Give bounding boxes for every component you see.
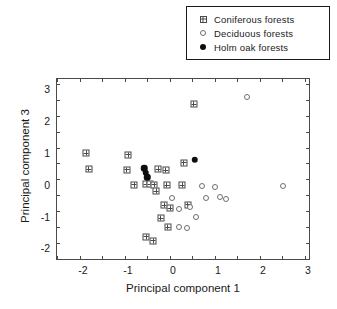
data-point <box>155 166 162 173</box>
crossed-square-icon <box>131 181 138 188</box>
crossed-square-icon <box>163 182 170 189</box>
open-circle-icon <box>223 196 229 202</box>
data-point <box>169 195 175 201</box>
data-point <box>193 214 199 220</box>
data-point <box>167 205 174 212</box>
filled-circle-icon <box>191 156 198 163</box>
axis-tick <box>192 79 193 82</box>
open-circle-icon <box>192 30 214 36</box>
open-circle-icon <box>176 224 182 230</box>
axis-tick <box>260 256 261 259</box>
data-point <box>203 195 209 201</box>
open-circle-icon <box>169 195 175 201</box>
axis-tick <box>260 79 261 82</box>
data-point <box>150 237 157 244</box>
scatter-plot-figure: Coniferous forests Deciduous forests Hol… <box>0 0 337 309</box>
crossed-square-icon <box>83 150 90 157</box>
data-point <box>125 151 132 158</box>
chart-legend: Coniferous forests Deciduous forests Hol… <box>186 6 330 60</box>
axis-tick <box>170 256 171 259</box>
filled-circle-icon <box>192 44 214 51</box>
data-point <box>131 181 138 188</box>
data-point <box>179 182 186 189</box>
open-circle-icon <box>176 206 182 212</box>
data-point <box>157 215 164 222</box>
x-tick-label: -1 <box>123 264 132 276</box>
crossed-square-icon <box>167 205 174 212</box>
axis-tick <box>57 148 60 149</box>
axis-tick <box>57 116 60 117</box>
legend-item-holm-oak-forests: Holm oak forests <box>192 40 323 54</box>
open-circle-icon <box>203 195 209 201</box>
axis-tick <box>102 79 103 82</box>
x-tick-label: -2 <box>78 264 87 276</box>
axis-tick <box>125 256 126 259</box>
crossed-square-icon <box>190 101 197 108</box>
axis-tick <box>57 259 60 260</box>
open-circle-icon <box>280 183 286 189</box>
legend-item-coniferous-forests: Coniferous forests <box>192 12 323 26</box>
y-tick-label: 0 <box>34 179 50 191</box>
crossed-square-icon <box>179 182 186 189</box>
crossed-square-icon <box>164 224 171 231</box>
data-point <box>190 101 197 108</box>
legend-label-coniferous-forests: Coniferous forests <box>214 13 295 26</box>
axis-tick <box>57 179 60 180</box>
data-point <box>184 225 190 231</box>
data-point <box>212 184 218 190</box>
crossed-square-icon <box>123 166 130 173</box>
open-circle-icon <box>199 183 205 189</box>
filled-circle-icon <box>144 174 151 181</box>
crossed-square-icon <box>180 159 187 166</box>
axis-tick <box>80 79 81 82</box>
data-point <box>199 183 205 189</box>
legend-label-deciduous-forests: Deciduous forests <box>214 27 293 40</box>
data-point <box>164 224 171 231</box>
axis-tick <box>306 148 309 149</box>
axis-tick <box>102 256 103 259</box>
crossed-square-icon <box>155 166 162 173</box>
data-point <box>180 159 187 166</box>
axis-tick <box>170 79 171 82</box>
data-point <box>123 166 130 173</box>
data-point <box>176 224 182 230</box>
crossed-square-icon <box>192 16 214 23</box>
legend-label-holm-oak-forests: Holm oak forests <box>214 41 288 54</box>
data-point <box>144 174 151 181</box>
axis-tick <box>57 132 60 133</box>
data-point <box>217 194 223 200</box>
crossed-square-icon <box>150 237 157 244</box>
data-point <box>280 183 286 189</box>
axis-tick <box>147 256 148 259</box>
axis-tick <box>237 256 238 259</box>
open-circle-icon <box>217 194 223 200</box>
axis-tick <box>282 79 283 82</box>
x-tick-label: 1 <box>215 264 221 276</box>
crossed-square-icon <box>153 188 160 195</box>
crossed-square-icon <box>157 215 164 222</box>
axis-tick <box>57 79 58 82</box>
axis-tick <box>306 84 309 85</box>
y-tick-label: -2 <box>34 242 50 254</box>
crossed-square-icon <box>125 151 132 158</box>
axis-tick <box>306 100 309 101</box>
open-circle-icon <box>184 225 190 231</box>
axis-tick <box>306 132 309 133</box>
open-circle-icon <box>212 184 218 190</box>
axis-tick <box>215 256 216 259</box>
open-circle-icon <box>193 214 199 220</box>
x-tick-label: 3 <box>305 264 311 276</box>
y-tick-label: 1 <box>34 147 50 159</box>
axis-tick <box>125 79 126 82</box>
axis-tick <box>57 84 60 85</box>
axis-tick <box>147 79 148 82</box>
axis-tick <box>306 163 309 164</box>
axis-tick <box>57 211 60 212</box>
data-point <box>143 233 150 240</box>
y-axis-label: Principal component 3 <box>19 71 31 261</box>
axis-tick <box>57 243 60 244</box>
data-point <box>85 166 92 173</box>
y-tick-label: -1 <box>34 211 50 223</box>
axis-tick <box>306 195 309 196</box>
crossed-square-icon <box>143 233 150 240</box>
